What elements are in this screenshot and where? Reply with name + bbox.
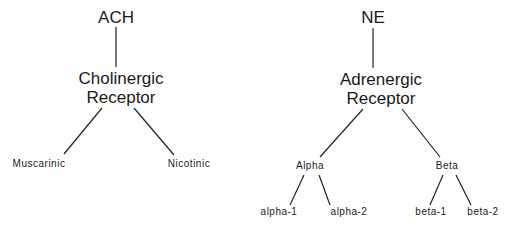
alpha1-label: alpha-1 [261, 207, 298, 217]
ach-label: ACH [98, 9, 134, 26]
adrenergic-to-alpha-line [320, 109, 363, 157]
beta-label: Beta [436, 161, 459, 171]
nicotinic-label: Nicotinic [168, 159, 210, 169]
muscarinic-label: Muscarinic [13, 159, 66, 169]
adrenergic-receptor-line2: Receptor [347, 89, 416, 108]
alpha2-label: alpha-2 [331, 207, 368, 217]
beta2-label: beta-2 [467, 207, 498, 217]
cholinergic-to-nicotinic-line [134, 108, 174, 155]
ne-label: NE [361, 9, 385, 26]
beta1-label: beta-1 [415, 207, 446, 217]
beta-to-beta1-line [430, 175, 443, 205]
cholinergic-receptor-line1: Cholinergic [78, 69, 163, 88]
adrenergic-receptor-line1: Adrenergic [340, 70, 422, 89]
alpha-to-alpha2-line [319, 175, 330, 205]
alpha-to-alpha1-line [290, 175, 304, 205]
receptor-diagram: ACH Cholinergic Receptor Muscarinic Nico… [0, 0, 507, 227]
beta-to-beta2-line [456, 175, 471, 205]
cholinergic-to-muscarinic-line [64, 108, 102, 154]
alpha-label: Alpha [296, 161, 324, 171]
cholinergic-receptor-line2: Receptor [87, 88, 156, 107]
adrenergic-to-beta-line [402, 109, 440, 157]
connector-lines [0, 0, 507, 227]
